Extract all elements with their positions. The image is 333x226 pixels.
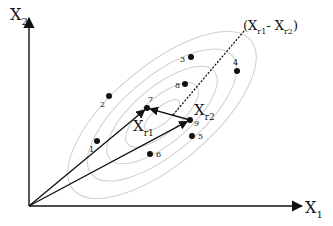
point-dot xyxy=(187,117,193,123)
point-label: 5 xyxy=(198,132,203,141)
point-label: 9 xyxy=(194,119,199,128)
point-dot xyxy=(234,68,240,74)
point-dot xyxy=(94,138,100,144)
data-point-4: 4 xyxy=(233,58,240,74)
point-label: 3 xyxy=(180,55,185,64)
point-dot xyxy=(144,105,150,111)
contour-ellipse-5 xyxy=(42,3,283,226)
point-dot xyxy=(189,133,195,139)
point-label: 6 xyxy=(156,150,161,159)
difference-direction-line xyxy=(173,31,244,115)
difference-label: (Xr1- Xr2) xyxy=(243,18,298,36)
point-label: 1 xyxy=(89,145,94,154)
point-dot xyxy=(188,54,194,60)
point-label: 8 xyxy=(175,81,180,90)
x-axis-label: X1 xyxy=(305,198,323,220)
vector-xr2-arrow xyxy=(29,121,187,206)
vector-diagram: X1 X2 (Xr1- Xr2) Xr1 Xr2 123456789 xyxy=(0,0,333,226)
point-label: 7 xyxy=(148,95,153,104)
data-point-7: 7 xyxy=(144,95,153,111)
data-point-8: 8 xyxy=(175,81,188,90)
data-point-9: 9 xyxy=(187,117,199,128)
point-dot xyxy=(182,81,188,87)
point-dot xyxy=(106,93,112,99)
contour-ellipse-4 xyxy=(67,27,257,203)
vector-xr1-label: Xr1 xyxy=(133,117,154,138)
point-dot xyxy=(147,151,153,157)
contour-ellipses xyxy=(42,3,283,226)
point-label: 4 xyxy=(233,58,238,67)
y-axis-label: X2 xyxy=(10,5,28,27)
point-label: 2 xyxy=(100,100,105,109)
data-points: 123456789 xyxy=(89,54,240,159)
